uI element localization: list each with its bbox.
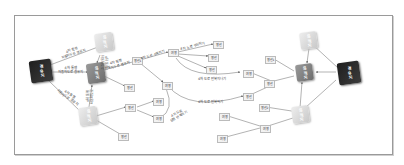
small-node[interactable]: 행선 [264,80,275,88]
small-node[interactable]: 여행 [219,113,230,121]
left-hub-node[interactable]: 경유지 [29,59,54,84]
edge-label: 4차 통행 자동차도로 경유지 [58,66,83,74]
right-node-top[interactable]: 목적지 [299,31,318,50]
small-node[interactable]: 여행 [162,82,173,90]
small-node[interactable]: 행선2 [259,104,270,112]
small-node[interactable]: 행선 [125,104,136,112]
small-node[interactable]: 여행 [153,115,164,123]
left-node-bottom[interactable]: 목적지 [78,106,98,126]
small-node[interactable]: 행선 [243,93,254,101]
right-hub-node[interactable]: 경유지 [337,61,362,86]
edge-label: 4차 통행 자동차도로 [86,89,94,104]
small-node[interactable]: 행선 [208,54,219,62]
small-node[interactable]: 여행 [153,98,164,106]
small-node[interactable]: 행선 [206,66,217,74]
small-node[interactable]: 행선1 [265,56,276,64]
edge-label: 4차 도로 반복지나기 [198,77,226,81]
small-node[interactable]: 여행 [260,125,271,133]
small-node[interactable]: 행선 [213,41,224,49]
edge-label: 4차 도로 반복하기 [198,100,223,104]
right-node-bottom[interactable]: 목적지 [291,105,310,124]
small-node[interactable]: 행선 [124,84,135,92]
small-node[interactable]: 여행 [217,135,228,143]
right-node-middle[interactable]: 목적지 [295,63,314,82]
small-node[interactable]: 여행 [168,49,179,57]
small-node[interactable]: 여행 [243,70,254,78]
left-node-top[interactable]: 목적지 [94,32,114,52]
small-node[interactable]: 행선 [118,133,129,141]
